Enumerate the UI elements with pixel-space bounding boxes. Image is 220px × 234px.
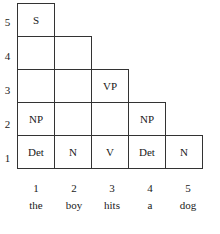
chart-cell[interactable] [54, 69, 92, 103]
chart-cell[interactable] [54, 36, 92, 70]
chart-cell[interactable]: V [91, 135, 129, 169]
chart-cell[interactable] [17, 69, 55, 103]
sentence-word: dog [169, 200, 207, 211]
sentence-word-axis: the boy hits a dog [17, 200, 207, 211]
chart-cell[interactable]: Det [128, 135, 166, 169]
sentence-word: boy [55, 200, 93, 211]
column-number: 4 [131, 183, 169, 194]
row-label-1: 1 [0, 153, 15, 164]
chart-cell[interactable]: NP [128, 102, 166, 136]
column-number: 3 [93, 183, 131, 194]
chart-row-4 [17, 36, 203, 70]
chart-cell[interactable]: N [165, 135, 203, 169]
chart-cell[interactable] [17, 36, 55, 70]
chart-cell[interactable] [54, 102, 92, 136]
chart-cell[interactable]: S [17, 3, 55, 37]
row-label-3: 3 [0, 85, 15, 96]
row-label-2: 2 [0, 119, 15, 130]
chart-cell[interactable]: N [54, 135, 92, 169]
chart-cell[interactable]: NP [17, 102, 55, 136]
chart-cell[interactable] [91, 102, 129, 136]
sentence-word: hits [93, 200, 131, 211]
column-number-axis: 1 2 3 4 5 [17, 183, 207, 194]
column-number: 2 [55, 183, 93, 194]
chart-grid: S VP NP NP Det N V Det N [17, 3, 203, 169]
chart-row-1: Det N V Det N [17, 135, 203, 169]
column-number: 5 [169, 183, 207, 194]
chart-row-2: NP NP [17, 102, 203, 136]
chart-cell[interactable]: Det [17, 135, 55, 169]
column-number: 1 [17, 183, 55, 194]
sentence-word: the [17, 200, 55, 211]
chart-cell[interactable]: VP [91, 69, 129, 103]
row-label-4: 4 [0, 51, 15, 62]
cyk-parse-chart: 5 4 3 2 1 S VP NP NP Det N V Det N [0, 0, 220, 234]
row-label-5: 5 [0, 17, 15, 28]
chart-row-5: S [17, 3, 203, 37]
sentence-word: a [131, 200, 169, 211]
chart-row-3: VP [17, 69, 203, 103]
